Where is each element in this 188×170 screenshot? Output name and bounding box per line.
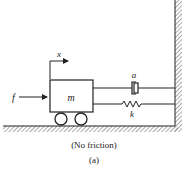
wheel-icon — [55, 113, 67, 125]
wall-hatch — [175, 0, 182, 132]
force-label: f — [12, 92, 16, 103]
spring-zigzag-icon — [93, 101, 175, 107]
damper-label: a — [132, 70, 137, 80]
spring-label: k — [130, 109, 135, 119]
wheels — [55, 113, 87, 125]
spring: k — [93, 101, 175, 119]
damper: a — [93, 70, 175, 94]
damper-piston — [134, 83, 138, 93]
mass-label: m — [67, 92, 74, 103]
wall — [175, 0, 182, 132]
mass-spring-damper-diagram: m f x a k (No friction) (a) — [0, 0, 188, 170]
displacement-indicator: x — [50, 49, 68, 79]
mass-block: m — [50, 80, 93, 112]
arrow-right-icon — [50, 61, 68, 79]
displacement-label: x — [56, 49, 61, 59]
ground — [3, 126, 178, 132]
figure-caption: (a) — [89, 155, 99, 165]
force-arrow: f — [12, 92, 47, 103]
friction-note: (No friction) — [71, 140, 117, 150]
wheel-icon — [75, 113, 87, 125]
ground-hatch — [3, 126, 178, 132]
